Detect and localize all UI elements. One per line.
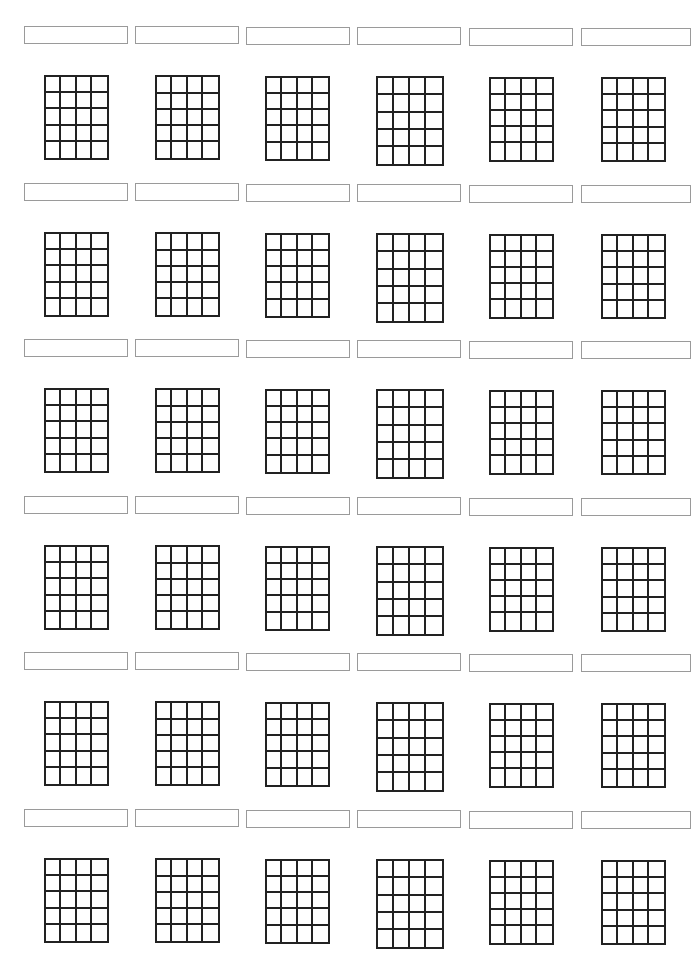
fret-cell bbox=[506, 721, 521, 737]
fret-cell bbox=[92, 752, 107, 768]
fret-cell bbox=[92, 422, 107, 438]
fret-cell bbox=[410, 113, 426, 130]
fret-cell bbox=[537, 597, 552, 613]
fret-cell bbox=[394, 704, 410, 721]
chord-diagram-grid bbox=[489, 234, 554, 319]
chord-name-field[interactable] bbox=[246, 340, 350, 358]
chord-name-field[interactable] bbox=[24, 496, 128, 514]
fret-cell bbox=[603, 737, 618, 753]
chord-name-field[interactable] bbox=[469, 654, 573, 672]
fret-cell bbox=[649, 441, 664, 457]
fret-cell bbox=[618, 878, 633, 894]
fret-cell bbox=[61, 109, 76, 125]
chord-diagram-grid bbox=[155, 388, 220, 473]
fret-cell bbox=[157, 77, 172, 93]
chord-name-field[interactable] bbox=[246, 810, 350, 828]
fret-cell bbox=[46, 563, 61, 579]
chord-name-field[interactable] bbox=[581, 185, 691, 203]
chord-name-field[interactable] bbox=[135, 652, 239, 670]
fret-cell bbox=[298, 439, 313, 455]
fret-cell bbox=[157, 547, 172, 563]
fret-cell bbox=[410, 756, 426, 773]
fret-cell bbox=[522, 581, 537, 597]
fret-cell bbox=[203, 925, 218, 941]
fret-cell bbox=[506, 456, 521, 472]
chord-name-field[interactable] bbox=[357, 497, 461, 515]
fret-cell bbox=[491, 252, 506, 268]
fret-cell bbox=[426, 548, 442, 565]
fret-cell bbox=[410, 773, 426, 790]
chord-name-field[interactable] bbox=[469, 811, 573, 829]
chord-name-field[interactable] bbox=[357, 27, 461, 45]
chord-name-field[interactable] bbox=[246, 497, 350, 515]
fret-cell bbox=[46, 579, 61, 595]
fret-cell bbox=[649, 598, 664, 614]
chord-name-field[interactable] bbox=[581, 654, 691, 672]
fret-cell bbox=[394, 147, 410, 164]
fret-cell bbox=[267, 423, 282, 439]
fret-cell bbox=[378, 896, 394, 913]
fret-cell bbox=[634, 598, 649, 614]
fret-cell bbox=[46, 77, 61, 93]
chord-name-field[interactable] bbox=[24, 652, 128, 670]
chord-name-field[interactable] bbox=[24, 26, 128, 44]
fret-cell bbox=[298, 720, 313, 736]
fret-cell bbox=[537, 143, 552, 159]
fret-cell bbox=[410, 130, 426, 147]
chord-name-field[interactable] bbox=[581, 811, 691, 829]
fret-cell bbox=[92, 439, 107, 455]
fret-cell bbox=[77, 266, 92, 282]
fret-cell bbox=[313, 861, 328, 877]
chord-name-field[interactable] bbox=[24, 339, 128, 357]
chord-name-field[interactable] bbox=[469, 28, 573, 46]
chord-diagram-grid bbox=[376, 389, 444, 479]
fret-cell bbox=[410, 861, 426, 878]
fret-cell bbox=[603, 598, 618, 614]
chord-diagram-grid bbox=[44, 75, 109, 160]
chord-name-field[interactable] bbox=[581, 341, 691, 359]
fret-cell bbox=[203, 299, 218, 315]
fret-cell bbox=[634, 549, 649, 565]
fret-cell bbox=[298, 596, 313, 612]
chord-diagram-grid bbox=[376, 546, 444, 636]
fret-cell bbox=[506, 300, 521, 316]
chord-name-field[interactable] bbox=[469, 185, 573, 203]
fret-cell bbox=[313, 893, 328, 909]
chord-diagram-grid bbox=[44, 701, 109, 786]
chord-name-field[interactable] bbox=[246, 653, 350, 671]
fret-cell bbox=[282, 736, 297, 752]
chord-name-field[interactable] bbox=[469, 341, 573, 359]
chord-name-field[interactable] bbox=[135, 496, 239, 514]
fret-cell bbox=[634, 754, 649, 770]
chord-name-field[interactable] bbox=[24, 183, 128, 201]
chord-name-field[interactable] bbox=[469, 498, 573, 516]
chord-name-field[interactable] bbox=[357, 653, 461, 671]
chord-name-field[interactable] bbox=[246, 184, 350, 202]
chord-name-field[interactable] bbox=[246, 27, 350, 45]
fret-cell bbox=[46, 390, 61, 406]
fret-cell bbox=[426, 773, 442, 790]
chord-name-field[interactable] bbox=[135, 183, 239, 201]
fret-cell bbox=[634, 392, 649, 408]
fret-cell bbox=[157, 283, 172, 299]
chord-name-field[interactable] bbox=[581, 28, 691, 46]
fret-cell bbox=[282, 893, 297, 909]
fret-cell bbox=[394, 78, 410, 95]
chord-name-field[interactable] bbox=[357, 184, 461, 202]
chord-name-field[interactable] bbox=[135, 809, 239, 827]
fret-cell bbox=[267, 235, 282, 251]
fret-cell bbox=[157, 390, 172, 406]
fret-cell bbox=[46, 422, 61, 438]
fret-cell bbox=[77, 390, 92, 406]
chord-name-field[interactable] bbox=[581, 498, 691, 516]
chord-name-field[interactable] bbox=[135, 26, 239, 44]
chord-name-field[interactable] bbox=[24, 809, 128, 827]
chord-name-field[interactable] bbox=[135, 339, 239, 357]
chord-name-field[interactable] bbox=[357, 810, 461, 828]
fret-cell bbox=[491, 111, 506, 127]
fret-cell bbox=[649, 285, 664, 301]
fret-cell bbox=[267, 94, 282, 110]
chord-name-field[interactable] bbox=[357, 340, 461, 358]
fret-cell bbox=[61, 142, 76, 158]
fret-cell bbox=[172, 736, 187, 752]
